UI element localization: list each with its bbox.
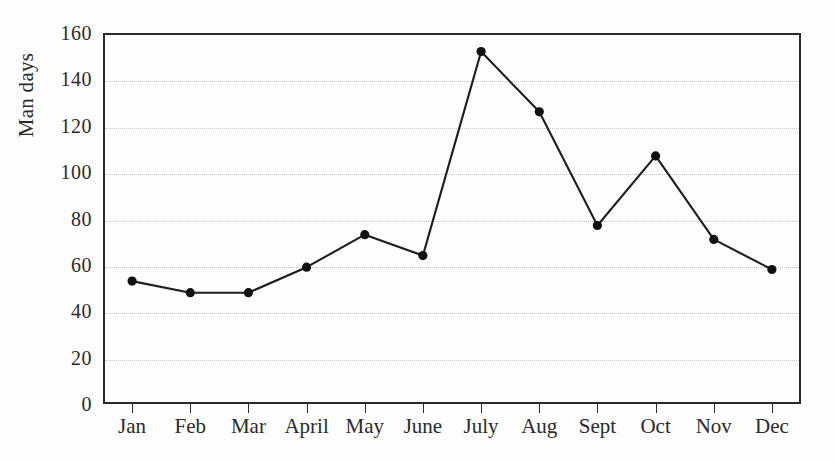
y-tick-label: 80 bbox=[32, 207, 92, 230]
x-tick bbox=[248, 404, 249, 413]
gridline bbox=[105, 221, 799, 222]
x-tick bbox=[714, 404, 715, 413]
gridline bbox=[105, 128, 799, 129]
x-tick bbox=[132, 404, 133, 413]
x-tick bbox=[656, 404, 657, 413]
x-tick bbox=[597, 404, 598, 413]
gridline bbox=[105, 313, 799, 314]
gridline bbox=[105, 174, 799, 175]
x-tick-label-dec: Dec bbox=[727, 414, 817, 439]
chart-figure: Man days 020406080100120140160 JanFebMar… bbox=[0, 0, 835, 462]
x-tick bbox=[190, 404, 191, 413]
y-tick-label: 160 bbox=[32, 22, 92, 45]
x-tick bbox=[481, 404, 482, 413]
gridline bbox=[105, 267, 799, 268]
y-tick-label: 60 bbox=[32, 253, 92, 276]
gridline bbox=[105, 360, 799, 361]
x-tick bbox=[539, 404, 540, 413]
x-tick bbox=[423, 404, 424, 413]
plot-area bbox=[103, 33, 801, 404]
y-tick-label: 140 bbox=[32, 68, 92, 91]
y-tick-label: 20 bbox=[32, 346, 92, 369]
gridline bbox=[105, 81, 799, 82]
y-tick-label: 0 bbox=[32, 393, 92, 416]
y-tick-label: 40 bbox=[32, 300, 92, 323]
y-tick-label: 100 bbox=[32, 161, 92, 184]
y-tick-label: 120 bbox=[32, 114, 92, 137]
x-tick bbox=[307, 404, 308, 413]
x-tick bbox=[365, 404, 366, 413]
x-tick bbox=[772, 404, 773, 413]
